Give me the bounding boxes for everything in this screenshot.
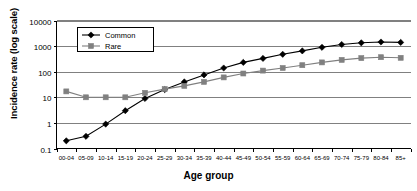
x-axis-ticks: 00-0405-0910-1415-1920-2425-2930-3435-39… — [58, 149, 412, 161]
data-point-common — [398, 39, 404, 45]
x-tick-label: 15-19 — [118, 155, 134, 161]
x-tick-label: 60-64 — [295, 155, 311, 161]
x-tick-label: 75-79 — [354, 155, 370, 161]
data-point-common — [358, 40, 364, 46]
x-tick-label: 80-84 — [373, 155, 389, 161]
data-point-common — [260, 55, 266, 61]
data-point-rare — [339, 57, 344, 62]
data-point-rare — [261, 68, 266, 73]
x-tick-label: 20-24 — [137, 155, 153, 161]
y-tick-label: 10000 — [29, 18, 52, 27]
data-point-rare — [143, 90, 148, 95]
data-point-common — [280, 51, 286, 57]
legend-label: Common — [105, 31, 135, 40]
data-point-common — [299, 48, 305, 54]
data-point-rare — [379, 55, 384, 60]
data-point-common — [63, 138, 69, 144]
x-tick-label: 30-34 — [177, 155, 193, 161]
data-point-rare — [202, 79, 207, 84]
legend-label: Rare — [105, 42, 121, 51]
data-point-common — [378, 39, 384, 45]
data-point-rare — [221, 75, 226, 80]
data-point-rare — [280, 66, 285, 71]
series-line-common — [66, 42, 400, 141]
data-point-rare — [64, 89, 69, 94]
x-tick-label: 35-39 — [196, 155, 212, 161]
data-point-common — [221, 65, 227, 71]
x-tick-label: 55-59 — [275, 155, 291, 161]
series-line-rare — [66, 57, 400, 97]
data-point-rare — [398, 55, 403, 60]
y-axis-ticks: 1000010001001010.1 — [29, 18, 56, 155]
x-tick-label: 50-54 — [255, 155, 271, 161]
x-tick-label: 65-69 — [314, 155, 330, 161]
data-point-common — [122, 108, 128, 114]
x-tick-label: 25-29 — [157, 155, 173, 161]
incidence-rate-chart: Incidence rate (log scale) Age group 100… — [0, 0, 417, 191]
x-tick-label: 05-09 — [78, 155, 94, 161]
y-tick-label: 10 — [43, 94, 52, 103]
y-tick-label: 1000 — [34, 43, 52, 52]
legend-marker-rare — [89, 44, 94, 49]
data-point-common — [142, 95, 148, 101]
data-series-layer — [63, 39, 404, 144]
data-point-rare — [84, 95, 89, 100]
data-point-rare — [241, 71, 246, 76]
chart-legend: CommonRare — [78, 28, 154, 52]
data-point-rare — [320, 60, 325, 65]
x-tick-label: 40-44 — [216, 155, 232, 161]
plot-area: 1000010001001010.1 00-0405-0910-1415-192… — [0, 0, 417, 191]
data-point-common — [83, 133, 89, 139]
data-point-rare — [103, 95, 108, 100]
data-point-rare — [123, 95, 128, 100]
data-point-common — [240, 59, 246, 65]
x-tick-label: 70-74 — [334, 155, 350, 161]
y-tick-label: 1 — [47, 120, 52, 129]
data-point-rare — [300, 63, 305, 68]
y-tick-label: 0.1 — [40, 146, 52, 155]
x-tick-label: 85+ — [396, 155, 407, 161]
data-point-rare — [162, 87, 167, 92]
y-tick-label: 100 — [38, 69, 52, 78]
data-point-rare — [359, 56, 364, 61]
data-point-common — [103, 121, 109, 127]
x-tick-label: 45-49 — [236, 155, 252, 161]
data-point-common — [319, 44, 325, 50]
x-tick-label: 10-14 — [98, 155, 114, 161]
data-point-rare — [182, 83, 187, 88]
x-tick-label: 00-04 — [59, 155, 75, 161]
